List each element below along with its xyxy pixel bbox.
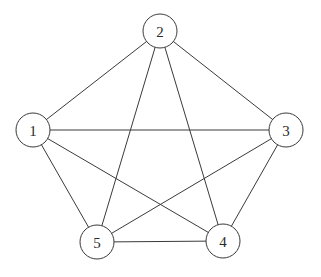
- node-label: 1: [29, 123, 37, 139]
- graph-diagram: 12345: [0, 0, 321, 277]
- node-5: 5: [80, 225, 114, 259]
- node-label: 5: [93, 235, 101, 251]
- node-label: 3: [282, 123, 290, 139]
- edge-1-5: [33, 130, 97, 242]
- node-1: 1: [16, 113, 50, 147]
- node-4: 4: [206, 224, 240, 258]
- edge-4-5: [97, 241, 223, 242]
- edge-2-3: [160, 31, 286, 130]
- edge-1-2: [33, 31, 160, 130]
- node-2: 2: [143, 14, 177, 48]
- edges-group: [33, 31, 286, 242]
- edge-3-4: [223, 130, 286, 241]
- node-label: 2: [156, 24, 164, 40]
- nodes-group: 12345: [16, 14, 303, 259]
- node-label: 4: [219, 234, 227, 250]
- node-3: 3: [269, 113, 303, 147]
